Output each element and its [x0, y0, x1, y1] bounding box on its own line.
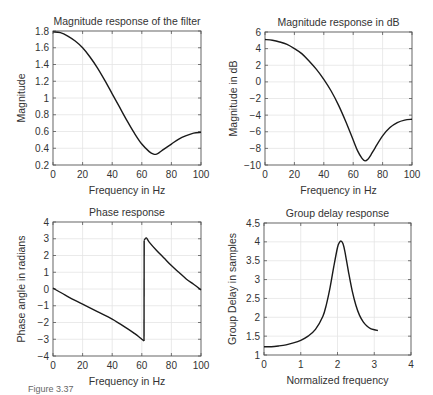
x-tick-label: 40 — [107, 360, 119, 371]
y-tick-label: −2 — [38, 317, 50, 328]
y-tick-label: 1.6 — [35, 42, 49, 53]
data-line — [144, 238, 201, 290]
y-tick-label: 4 — [43, 217, 49, 228]
x-tick-label: 20 — [77, 360, 89, 371]
y-tick-label: −8 — [250, 143, 262, 154]
x-axis-label: Frequency in Hz — [89, 184, 165, 196]
chart-title: Magnitude response of the filter — [53, 15, 201, 27]
y-tick-label: 4.5 — [246, 218, 260, 229]
data-line — [265, 39, 412, 160]
y-tick-label: 0.4 — [35, 143, 49, 154]
y-tick-label: −4 — [250, 110, 262, 121]
chart-title: Group delay response — [286, 207, 389, 219]
x-tick-label: 0 — [50, 360, 56, 371]
y-tick-label: 2.5 — [246, 293, 260, 304]
x-tick-label: 60 — [348, 169, 360, 180]
y-tick-label: 2 — [255, 60, 261, 71]
x-tick-label: 40 — [107, 169, 119, 180]
x-tick-label: 1 — [298, 359, 304, 370]
y-tick-label: 2 — [43, 250, 49, 261]
chart-title: Magnitude response in dB — [278, 16, 400, 28]
y-tick-label: 3.5 — [246, 255, 260, 266]
x-axis-label: Frequency in Hz — [89, 375, 165, 387]
y-tick-label: 0.8 — [35, 109, 49, 120]
y-axis-label: Phase angle in radians — [15, 236, 27, 343]
x-tick-label: 80 — [377, 169, 389, 180]
x-tick-label: 0 — [262, 169, 268, 180]
y-tick-label: 0.2 — [35, 160, 49, 171]
subplot-phase: 020406080100−4−3−2−101234Phase responseF… — [15, 206, 210, 387]
y-tick-label: 4 — [255, 43, 261, 54]
y-tick-label: −3 — [38, 334, 50, 345]
x-tick-label: 4 — [408, 359, 414, 370]
x-tick-label: 20 — [77, 169, 89, 180]
x-tick-label: 0 — [50, 169, 56, 180]
x-axis-label: Frequency in Hz — [300, 184, 376, 196]
x-tick-label: 2 — [335, 359, 341, 370]
subplot-magnitude-db: 020406080100−10−8−6−4−20246Magnitude res… — [227, 16, 421, 196]
y-tick-label: 6 — [255, 27, 261, 38]
y-tick-label: 1 — [254, 350, 260, 361]
y-tick-label: 1 — [43, 267, 49, 278]
x-tick-label: 60 — [136, 169, 148, 180]
data-line — [264, 241, 378, 347]
y-tick-label: −10 — [244, 160, 261, 171]
y-tick-label: 1.5 — [246, 331, 260, 342]
x-axis-label: Normalized frequency — [286, 374, 389, 386]
subplot-group-delay: 0123411.522.533.544.5Group delay respons… — [226, 207, 414, 386]
y-tick-label: 0 — [43, 284, 49, 295]
y-tick-label: 1 — [43, 93, 49, 104]
figure: 0204060801000.20.40.60.811.21.41.61.8Mag… — [0, 0, 433, 395]
y-axis-label: Magnitude — [15, 73, 27, 122]
data-line — [53, 32, 201, 155]
x-tick-label: 20 — [289, 169, 301, 180]
y-tick-label: 1.4 — [35, 59, 49, 70]
y-tick-label: 3 — [254, 274, 260, 285]
chart-title: Phase response — [89, 206, 165, 218]
x-tick-label: 100 — [404, 169, 421, 180]
y-tick-label: 0 — [255, 76, 261, 87]
y-tick-label: 1.8 — [35, 26, 49, 37]
x-tick-label: 60 — [136, 360, 148, 371]
data-line — [53, 288, 144, 341]
x-tick-label: 80 — [166, 169, 178, 180]
y-tick-label: 2 — [254, 312, 260, 323]
x-tick-label: 3 — [371, 359, 377, 370]
x-tick-label: 0 — [261, 359, 267, 370]
y-axis-label: Magnitude in dB — [227, 61, 239, 137]
y-tick-label: 4 — [254, 236, 260, 247]
x-tick-label: 100 — [193, 360, 210, 371]
y-tick-label: −1 — [38, 300, 50, 311]
y-tick-label: 0.6 — [35, 126, 49, 137]
x-tick-label: 40 — [318, 169, 330, 180]
figure-caption: Figure 3.37 — [28, 384, 74, 395]
y-tick-label: −4 — [38, 351, 50, 362]
subplot-magnitude: 0204060801000.20.40.60.811.21.41.61.8Mag… — [15, 15, 210, 196]
x-tick-label: 80 — [166, 360, 178, 371]
x-tick-label: 100 — [193, 169, 210, 180]
y-tick-label: 3 — [43, 233, 49, 244]
y-tick-label: 1.2 — [35, 76, 49, 87]
y-tick-label: −2 — [250, 93, 262, 104]
y-axis-label: Group Delay in samples — [226, 233, 238, 345]
y-tick-label: −6 — [250, 126, 262, 137]
